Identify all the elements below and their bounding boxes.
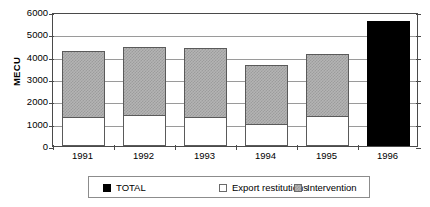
y-axis-tick-mark [49,59,54,60]
y-axis-tick-label: 4000 [2,53,48,63]
bar-segment-intervention [245,65,288,125]
bar-group [306,12,349,146]
y-axis-tick-mark [49,36,54,37]
bar-group [245,12,288,146]
y-axis-tick-label: 6000 [2,8,48,18]
bar-group [123,12,166,146]
x-axis-tick-labels: 199119921993199419951996 [52,150,418,166]
bar-group [184,12,227,146]
x-axis-tick-label: 1994 [236,150,296,162]
bar-segment-intervention [123,47,166,116]
x-axis-tick-label: 1991 [53,150,113,162]
y-axis-tick-mark [49,14,54,15]
bar-segment-export-restitutions [306,116,349,146]
y-axis-tick-label: 3000 [2,75,48,85]
bar-group [62,12,105,146]
gridline [53,103,417,104]
gridline [53,81,417,82]
bar-chart: MECU 6000500040003000200010000 199119921… [0,0,430,207]
bar-segment-export-restitutions [123,115,166,146]
y-axis-tick-mark [416,14,421,15]
gridline [53,59,417,60]
bar-segment-total [367,21,410,146]
y-axis-tick-mark [416,103,421,104]
y-axis-tick-mark [416,36,421,37]
bar-segment-export-restitutions [245,124,288,146]
y-axis-tick-label: 5000 [2,30,48,40]
legend-label: TOTAL [116,183,146,193]
legend-label: Intervention [307,183,357,193]
gridline [53,126,417,127]
bar-segment-export-restitutions [62,117,105,146]
y-axis-tick-label: 2000 [2,97,48,107]
y-axis-tick-mark [416,59,421,60]
gridline [53,36,417,37]
legend-item: Intervention [294,181,357,194]
chart-legend: TOTALExport restitutionsIntervention [88,176,370,198]
x-axis-tick-label: 1992 [114,150,174,162]
y-axis-tick-mark [416,126,421,127]
bar-group [367,12,410,146]
bar-segment-intervention [306,54,349,116]
legend-swatch-black [103,184,111,192]
bar-segment-intervention [62,51,105,118]
legend-swatch-white [219,184,227,192]
plot-area [52,13,418,147]
y-axis-tick-mark [49,126,54,127]
y-axis-tick-label: 0 [2,142,48,152]
x-axis-tick-label: 1995 [297,150,357,162]
y-axis-tick-mark [416,81,421,82]
y-axis-tick-labels: 6000500040003000200010000 [0,0,48,207]
y-axis-tick-mark [49,81,54,82]
bar-segment-intervention [184,48,227,118]
legend-item: TOTAL [103,181,146,194]
y-axis-tick-label: 1000 [2,120,48,130]
x-axis-tick-label: 1993 [175,150,235,162]
y-axis-tick-mark [416,148,421,149]
y-axis-tick-mark [49,103,54,104]
bar-segment-export-restitutions [184,117,227,146]
legend-swatch-gray [294,184,302,192]
x-axis-tick-label: 1996 [358,150,418,162]
